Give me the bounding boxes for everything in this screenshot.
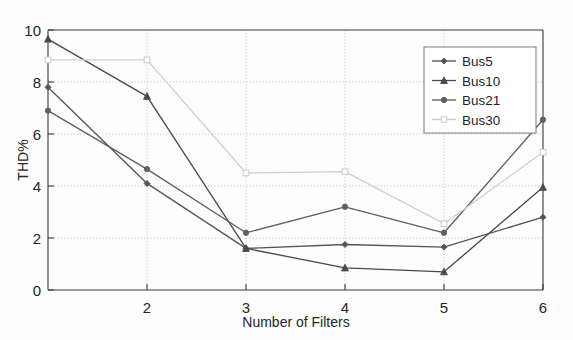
data-point-bus21-x6 bbox=[540, 117, 545, 122]
chart-figure: 0246810 23456 THD% Number of Filters Bus… bbox=[0, 0, 573, 340]
legend-marker-circle-icon bbox=[441, 97, 446, 102]
data-point-bus21-x4 bbox=[342, 204, 347, 209]
y-axis-title: THD% bbox=[15, 139, 31, 180]
data-point-bus21-x1 bbox=[45, 108, 50, 113]
data-point-bus21-x5 bbox=[441, 230, 446, 235]
x-axis-title: Number of Filters bbox=[242, 314, 349, 330]
data-point-bus30-x3 bbox=[243, 170, 249, 176]
y-tick-label-2: 2 bbox=[33, 230, 41, 247]
x-tick-label-6: 6 bbox=[539, 299, 547, 316]
y-tick-label-0: 0 bbox=[33, 282, 41, 299]
y-tick-label-8: 8 bbox=[33, 74, 41, 91]
data-point-bus21-x3 bbox=[243, 230, 248, 235]
data-point-bus30-x1 bbox=[45, 57, 51, 63]
y-tick-label-10: 10 bbox=[24, 22, 41, 39]
chart-legend[interactable]: Bus5Bus10Bus21Bus30 bbox=[424, 47, 536, 133]
data-point-bus30-x6 bbox=[540, 149, 546, 155]
data-point-bus30-x2 bbox=[144, 57, 150, 63]
thd-line-chart: 0246810 23456 THD% Number of Filters Bus… bbox=[0, 0, 573, 340]
y-tick-label-6: 6 bbox=[33, 126, 41, 143]
legend-label-bus10: Bus10 bbox=[462, 74, 500, 89]
data-point-bus30-x5 bbox=[441, 221, 447, 227]
data-point-bus21-x2 bbox=[144, 166, 149, 171]
legend-marker-square-icon bbox=[441, 117, 447, 123]
legend-label-bus5: Bus5 bbox=[462, 54, 493, 69]
legend-label-bus21: Bus21 bbox=[462, 93, 500, 108]
x-tick-label-2: 2 bbox=[143, 299, 151, 316]
y-tick-label-4: 4 bbox=[33, 178, 41, 195]
data-point-bus30-x4 bbox=[342, 169, 348, 175]
x-tick-label-5: 5 bbox=[440, 299, 448, 316]
legend-label-bus30: Bus30 bbox=[462, 113, 500, 128]
